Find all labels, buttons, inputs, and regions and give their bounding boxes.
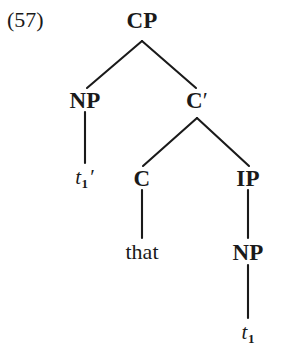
tree-node-label: CP xyxy=(126,8,157,33)
tree-node-label: NP xyxy=(232,240,263,265)
tree-node-label: C xyxy=(186,88,203,113)
tree-edge-cbar-c xyxy=(143,118,197,166)
tree-node-that: that xyxy=(126,241,159,263)
tree-node-ip: IP xyxy=(236,167,259,190)
tree-edge-cbar-ip xyxy=(197,118,249,166)
tree-edge-cp-np xyxy=(87,41,142,88)
tree-node-prime-mark: ′ xyxy=(88,165,95,189)
tree-node-label: IP xyxy=(236,166,259,191)
tree-node-c: C xyxy=(134,167,151,190)
tree-node-subscript: 1 xyxy=(81,175,88,190)
syntax-tree-figure: (57) CPNPC′t1′CIPthatNPt1 xyxy=(0,0,284,351)
tree-node-label: C xyxy=(134,166,151,191)
tree-node-np-comp: NP xyxy=(232,241,263,264)
tree-node-cp: CP xyxy=(126,9,157,32)
tree-node-trace1: t1′ xyxy=(75,167,94,190)
tree-node-subscript: 1 xyxy=(247,330,254,345)
tree-node-trace2: t1 xyxy=(242,322,255,345)
tree-node-np-spec: NP xyxy=(69,89,100,112)
tree-node-label: t xyxy=(242,320,248,344)
tree-node-label: NP xyxy=(69,88,100,113)
tree-node-label: t xyxy=(75,165,81,189)
tree-node-label: that xyxy=(126,239,159,264)
tree-node-prime-mark: ′ xyxy=(203,88,208,113)
tree-node-cbar: C′ xyxy=(186,89,208,112)
tree-edge-cp-cbar xyxy=(142,41,196,88)
